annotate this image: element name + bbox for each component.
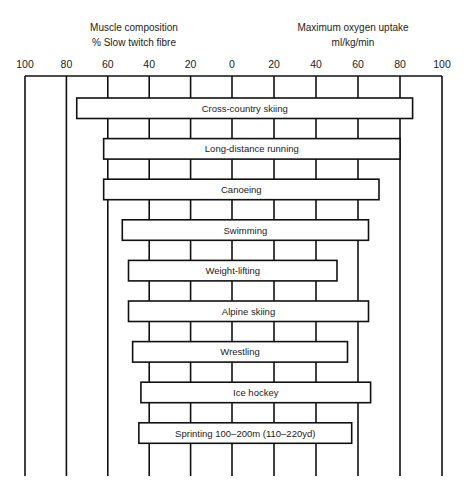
chart: Muscle composition % Slow twitch fibre M… <box>0 0 474 491</box>
bar-label: Ice hockey <box>233 387 279 398</box>
left-axis-title-line2: % Slow twitch fibre <box>92 37 176 48</box>
right-tick-label: 60 <box>352 58 364 70</box>
left-tick-label: 80 <box>61 58 73 70</box>
left-tick-label: 60 <box>102 58 114 70</box>
bar-label: Long-distance running <box>205 143 299 154</box>
bar-label: Canoeing <box>221 184 262 195</box>
bar-group: Long-distance running <box>104 139 400 160</box>
bar-group: Weight-lifting <box>129 260 338 281</box>
right-tick-label: 20 <box>268 58 280 70</box>
bar-label: Alpine skiing <box>222 306 275 317</box>
left-tick-label: 20 <box>185 58 197 70</box>
bar-group: Canoeing <box>104 179 379 200</box>
right-axis-title-line2: ml/kg/min <box>332 37 375 48</box>
bar-label: Cross-country skiing <box>202 103 288 114</box>
left-axis-title-line1: Muscle composition <box>90 22 178 33</box>
left-tick-label: 40 <box>143 58 155 70</box>
left-tick-label: 0 <box>229 58 235 70</box>
bar-group: Wrestling <box>133 342 348 363</box>
right-tick-label: 80 <box>394 58 406 70</box>
bar-label: Weight-lifting <box>205 265 260 276</box>
bar-group: Ice hockey <box>141 382 371 403</box>
bar-group: Alpine skiing <box>129 301 369 322</box>
bar-group: Sprinting 100–200m (110–220yd) <box>139 423 352 444</box>
left-tick-label: 100 <box>16 58 34 70</box>
bar-group: Cross-country skiing <box>77 98 413 119</box>
right-tick-label: 100 <box>433 58 451 70</box>
bar-label: Swimming <box>223 225 267 236</box>
right-axis-title-line1: Maximum oxygen uptake <box>297 22 409 33</box>
right-tick-label: 40 <box>310 58 322 70</box>
bar-label: Sprinting 100–200m (110–220yd) <box>175 428 315 439</box>
bar-group: Swimming <box>122 220 368 241</box>
bar-label: Wrestling <box>220 346 259 357</box>
